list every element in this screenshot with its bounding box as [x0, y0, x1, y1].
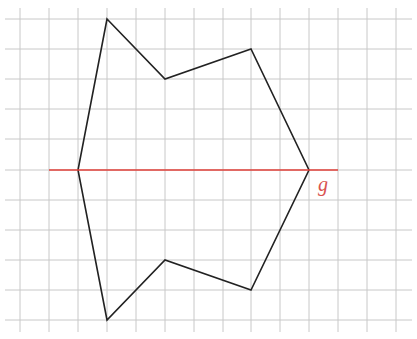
grid-figure: g	[0, 0, 417, 339]
axis-label-g: g	[318, 173, 328, 196]
diagram-canvas: g	[0, 0, 417, 339]
